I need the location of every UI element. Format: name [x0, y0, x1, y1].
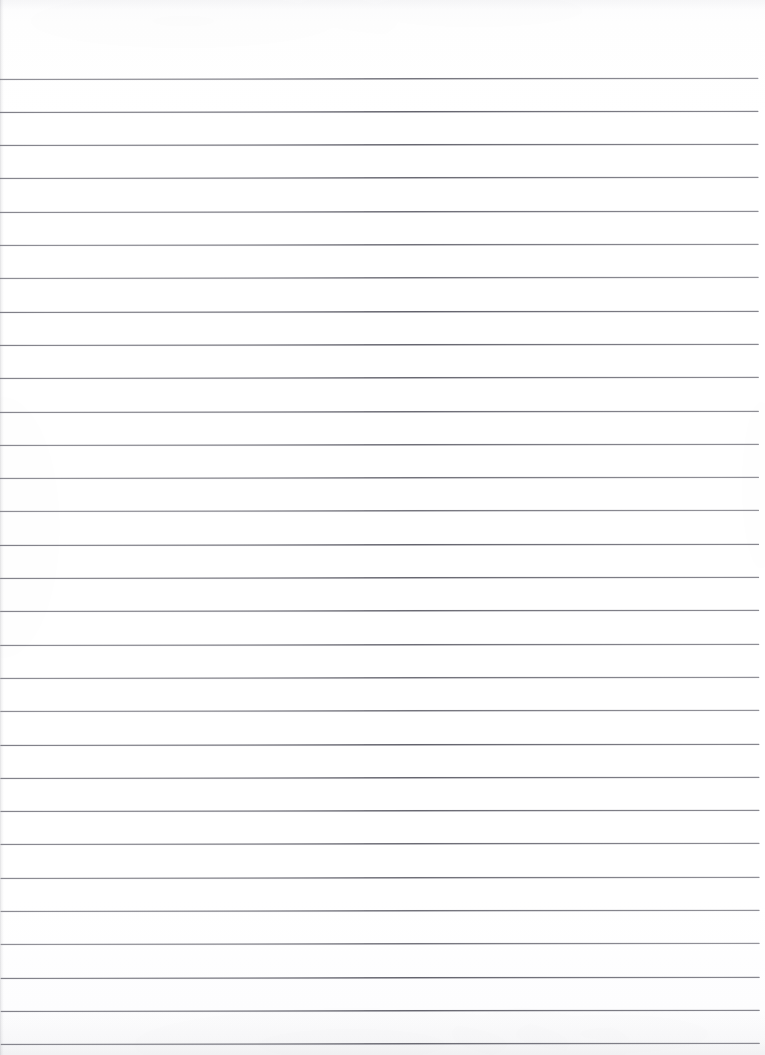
paper-background [0, 0, 765, 1055]
scanned-page [0, 0, 765, 1055]
